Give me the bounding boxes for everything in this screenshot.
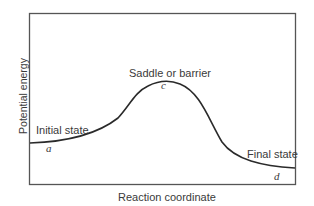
point-c-label: c [161, 79, 166, 91]
diagram-canvas [0, 0, 314, 206]
point-d-label: d [274, 170, 280, 182]
saddle-label: Saddle or barrier [129, 67, 211, 79]
y-axis-label: Potential energy [17, 56, 29, 136]
x-axis-label: Reaction coordinate [118, 191, 216, 203]
final-state-label: Final state [247, 148, 298, 160]
initial-state-label: Initial state [36, 124, 89, 136]
point-a-label: a [46, 142, 52, 154]
